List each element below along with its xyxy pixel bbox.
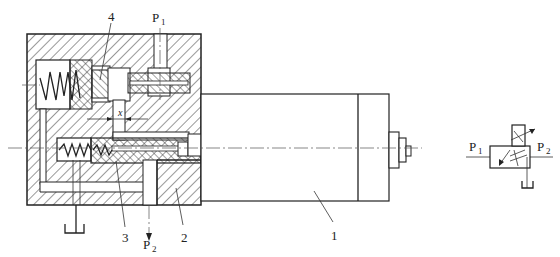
symbol-label-p1: P (469, 139, 476, 154)
valve-body (27, 34, 201, 205)
outlet-arrow-icon (146, 205, 152, 241)
svg-text:2: 2 (546, 146, 551, 156)
svg-text:1: 1 (161, 17, 166, 27)
symbol-label-p2: P (537, 139, 544, 154)
label-p2: P (143, 237, 150, 252)
drain-tank-icon (65, 205, 84, 233)
svg-text:1: 1 (478, 146, 483, 156)
valve-diagram: x 4 P 1 3 P 2 2 1 (0, 0, 560, 257)
label-part-3: 3 (122, 230, 129, 245)
label-part-4: 4 (108, 9, 115, 24)
label-part-2: 2 (181, 230, 188, 245)
svg-text:2: 2 (152, 244, 157, 254)
label-p1: P (152, 10, 159, 25)
symbol-tank-icon (522, 181, 533, 188)
label-part-1: 1 (331, 228, 338, 243)
cylinder-housing (201, 94, 411, 201)
valve-graphic-symbol: P 1 P 2 (466, 125, 553, 188)
label-x: x (117, 107, 123, 118)
